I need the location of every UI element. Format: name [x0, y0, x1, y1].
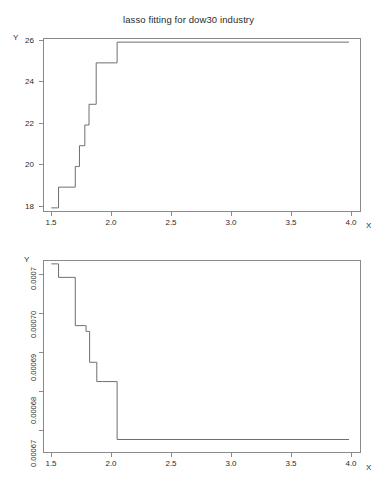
top-xtick-mark-2-0: [111, 212, 112, 216]
top-xtick-mark-1-5: [51, 212, 52, 216]
top-step-line: [51, 42, 349, 208]
chart-title: lasso fitting for dow30 industry: [0, 14, 377, 25]
bottom-chart-plot-area: [43, 260, 361, 453]
top-ytick-label-22: 22: [8, 119, 34, 128]
bottom-chart-panel: Y 0.0007 0.00070 0.00069 0.00068 0.00067…: [0, 240, 377, 477]
top-xtick-mark-4-0: [351, 212, 352, 216]
lasso-fitting-figure: lasso fitting for dow30 industry Y 26 24…: [0, 0, 377, 477]
top-xtick-label-3-5: 3.5: [276, 218, 306, 227]
bottom-ytick-label-0-00070: 0.00070: [29, 311, 38, 338]
bottom-xtick-label-1-5: 1.5: [36, 459, 66, 468]
top-xtick-label-4-0: 4.0: [336, 218, 366, 227]
bottom-x-axis-name: X: [366, 463, 371, 472]
top-ytick-label-26: 26: [8, 36, 34, 45]
top-xtick-mark-3-5: [291, 212, 292, 216]
bottom-xtick-label-2-0: 2.0: [96, 459, 126, 468]
bottom-step-line: [51, 264, 349, 440]
bottom-xtick-mark-4-0: [351, 453, 352, 457]
top-ytick-label-24: 24: [8, 77, 34, 86]
top-xtick-label-2-5: 2.5: [156, 218, 186, 227]
bottom-xtick-label-4-0: 4.0: [336, 459, 366, 468]
top-ytick-label-18: 18: [8, 202, 34, 211]
top-xtick-mark-3-0: [231, 212, 232, 216]
top-xtick-label-3-0: 3.0: [216, 218, 246, 227]
top-ytick-label-20: 20: [8, 160, 34, 169]
top-xtick-label-1-5: 1.5: [36, 218, 66, 227]
bottom-xtick-label-3-0: 3.0: [216, 459, 246, 468]
bottom-xtick-label-3-5: 3.5: [276, 459, 306, 468]
top-xtick-mark-2-5: [171, 212, 172, 216]
bottom-ytick-label-0-00069: 0.00069: [29, 354, 38, 381]
bottom-xtick-mark-1-5: [51, 453, 52, 457]
bottom-xtick-mark-3-5: [291, 453, 292, 457]
bottom-xtick-mark-2-5: [171, 453, 172, 457]
bottom-xtick-mark-2-0: [111, 453, 112, 457]
top-xtick-label-2-0: 2.0: [96, 218, 126, 227]
bottom-ytick-label-0-0007: 0.0007: [29, 267, 38, 290]
bottom-xtick-mark-3-0: [231, 453, 232, 457]
bottom-ytick-label-0-00068: 0.00068: [29, 397, 38, 424]
top-chart-plot-area: [43, 38, 361, 212]
bottom-xtick-label-2-5: 2.5: [156, 459, 186, 468]
top-chart-panel: lasso fitting for dow30 industry Y 26 24…: [0, 0, 377, 240]
top-x-axis-name: X: [366, 221, 371, 230]
bottom-y-axis-name: Y: [24, 255, 29, 264]
